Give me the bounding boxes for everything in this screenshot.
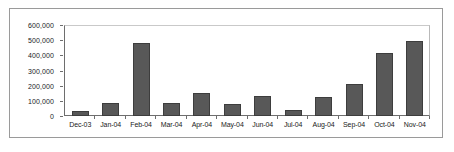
x-axis-tick-mark [339, 116, 369, 120]
y-axis-tick-label: 500,000 [28, 37, 54, 44]
y-axis-tick-label: 200,000 [28, 82, 54, 89]
bar-slot [187, 25, 217, 116]
y-axis-tick-label: 100,000 [28, 97, 54, 104]
bar-slot [248, 25, 278, 116]
bar-slot [217, 25, 247, 116]
y-axis-tick-mark [60, 25, 63, 26]
bar-slot [126, 25, 156, 116]
y-axis-tick-mark [60, 116, 63, 117]
x-axis-tick-label: Apr-04 [187, 121, 217, 135]
bar [224, 104, 241, 116]
bar-slot [339, 25, 369, 116]
bar-slot [369, 25, 399, 116]
bar [163, 103, 180, 116]
y-axis-tick-mark [60, 101, 63, 102]
bar-slot [278, 25, 308, 116]
bar [254, 96, 271, 116]
x-axis-ticks [65, 116, 430, 120]
bar [315, 97, 332, 116]
bar-slot [95, 25, 125, 116]
x-axis-tick-label: Aug-04 [308, 121, 338, 135]
bar [346, 84, 363, 116]
x-axis-tick-mark [156, 116, 186, 120]
x-axis-tick-label: Dec-03 [65, 121, 95, 135]
x-axis-tick-mark [278, 116, 308, 120]
bar-slot [308, 25, 338, 116]
x-axis-tick-mark [400, 116, 430, 120]
y-axis-tick-label: 600,000 [28, 22, 54, 29]
x-axis-tick-mark [369, 116, 399, 120]
bar-slot [156, 25, 186, 116]
bar [406, 41, 423, 116]
bar [376, 53, 393, 116]
bar [133, 43, 150, 116]
x-axis-tick-mark [308, 116, 338, 120]
y-axis: 600,000500,000400,000300,000200,000100,0… [10, 25, 60, 116]
y-axis-tick-mark [60, 86, 63, 87]
chart-frame: 600,000500,000400,000300,000200,000100,0… [9, 8, 443, 138]
bar-slot [65, 25, 95, 116]
x-axis-tick-label: Jun-04 [248, 121, 278, 135]
y-axis-tick-label: 400,000 [28, 52, 54, 59]
x-axis-tick-mark [187, 116, 217, 120]
x-axis-tick-label: Jul-04 [278, 121, 308, 135]
y-axis-tick-mark [60, 40, 63, 41]
bar-series [65, 25, 430, 116]
x-axis-tick-label: Mar-04 [156, 121, 186, 135]
bar-slot [400, 25, 430, 116]
x-axis-tick-mark [217, 116, 247, 120]
x-axis-tick-label: Jan-04 [95, 121, 125, 135]
x-axis-tick-mark [65, 116, 95, 120]
y-axis-tick-label: 0 [50, 113, 54, 120]
bar [193, 93, 210, 117]
x-axis-tick-label: May-04 [217, 121, 247, 135]
x-axis-tick-mark [95, 116, 125, 120]
y-axis-tick-mark [60, 71, 63, 72]
y-axis-tick-label: 300,000 [28, 67, 54, 74]
x-axis-tick-mark [126, 116, 156, 120]
bar [102, 103, 119, 116]
x-axis-tick-label: Sep-04 [339, 121, 369, 135]
x-axis-tick-label: Feb-04 [126, 121, 156, 135]
y-axis-tick-mark [60, 55, 63, 56]
x-axis-labels: Dec-03Jan-04Feb-04Mar-04Apr-04May-04Jun-… [65, 121, 430, 135]
x-axis-tick-label: Oct-04 [369, 121, 399, 135]
x-axis-tick-mark [248, 116, 278, 120]
x-axis-tick-label: Nov-04 [400, 121, 430, 135]
